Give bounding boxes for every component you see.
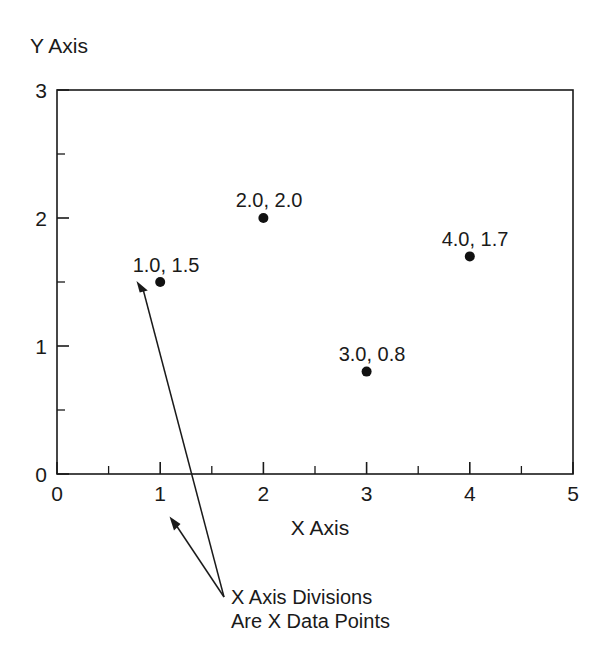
x-axis-minor-ticks	[109, 466, 522, 474]
data-point-marker-3[interactable]	[362, 367, 372, 377]
x-axis-title: X Axis	[291, 516, 349, 539]
data-point-label-2: 2.0, 2.0	[236, 189, 303, 211]
data-point-marker-1[interactable]	[155, 277, 165, 287]
y-axis-title: Y Axis	[30, 34, 88, 57]
y-axis-minor-ticks	[57, 154, 65, 410]
x-tick-label-5: 5	[567, 482, 579, 505]
y-tick-label-1: 1	[35, 335, 47, 358]
annotation-leader-to-x-tick	[170, 517, 225, 598]
x-tick-label-4: 4	[464, 482, 476, 505]
plot-frame	[57, 90, 573, 474]
data-point-label-3: 3.0, 0.8	[339, 343, 406, 365]
data-point-label-1: 1.0, 1.5	[133, 254, 200, 276]
arrow-head-to-data-point	[137, 281, 148, 293]
x-tick-label-2: 2	[258, 482, 270, 505]
x-tick-label-3: 3	[361, 482, 373, 505]
x-tick-label-1: 1	[154, 482, 166, 505]
annotation-line-1: X Axis Divisions	[231, 586, 372, 608]
annotation-leader-to-data-point	[137, 281, 225, 597]
y-tick-label-3: 3	[35, 79, 47, 102]
annotation-line-2: Are X Data Points	[231, 610, 390, 632]
data-point-marker-2[interactable]	[258, 213, 268, 223]
x-tick-label-0: 0	[51, 482, 63, 505]
plot-canvas: 0 1 2 3 0 1 2 3 4 5 Y Axis X Axis 1.0, 1…	[0, 0, 612, 666]
y-tick-label-2: 2	[35, 207, 47, 230]
y-tick-label-0: 0	[35, 463, 47, 486]
data-point-marker-4[interactable]	[465, 251, 475, 261]
scatter-plot-figure: 0 1 2 3 0 1 2 3 4 5 Y Axis X Axis 1.0, 1…	[0, 0, 612, 666]
data-point-label-4: 4.0, 1.7	[442, 228, 509, 250]
